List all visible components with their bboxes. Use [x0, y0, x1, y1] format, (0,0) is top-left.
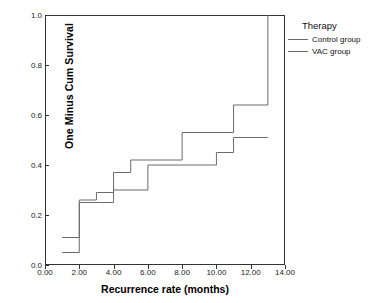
legend-item-control-group[interactable]: Control group — [296, 35, 373, 44]
legend: Therapy Control group VAC group — [296, 20, 373, 59]
legend-line-swatch-control — [288, 39, 308, 40]
legend-label-control-group: Control group — [312, 35, 360, 44]
series-line-vac-group — [62, 138, 268, 253]
legend-line-swatch-vac — [288, 51, 308, 52]
survival-chart-figure: 0.00.20.40.60.81.0 0.002.004.006.008.001… — [0, 0, 373, 303]
legend-label-vac-group: VAC group — [312, 47, 351, 56]
series-line-control-group — [62, 15, 268, 238]
legend-item-vac-group[interactable]: VAC group — [296, 47, 373, 56]
legend-title: Therapy — [302, 20, 373, 31]
